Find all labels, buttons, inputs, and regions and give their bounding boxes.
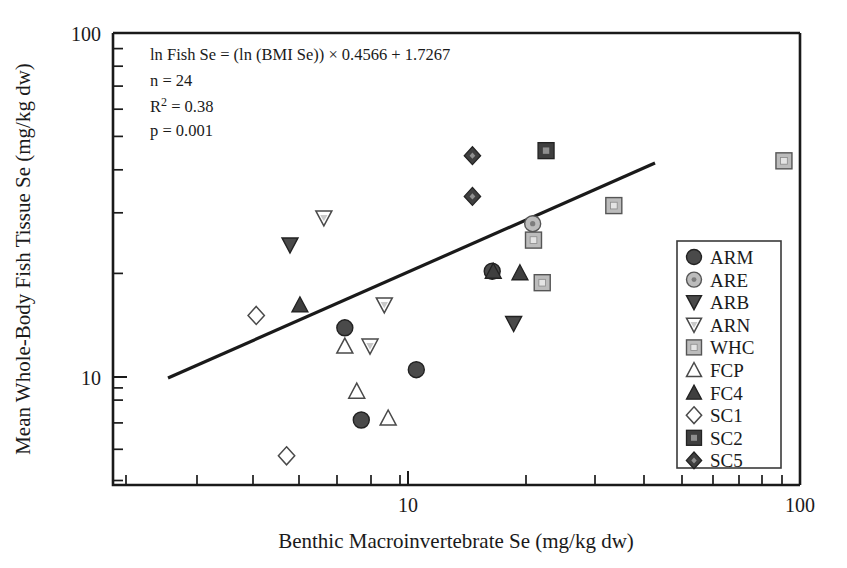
legend-label-sc2: SC2 xyxy=(710,428,743,449)
r-symbol: R xyxy=(150,97,161,116)
data-point-fc4 xyxy=(512,265,528,280)
scatter-plot: 100 10 10 100 Benthic Macroinvertebrate … xyxy=(0,0,847,568)
figure-container: 100 10 10 100 Benthic Macroinvertebrate … xyxy=(0,0,847,568)
y-axis-ticks xyxy=(113,33,127,481)
data-point-whc xyxy=(606,198,622,214)
data-point-fcp xyxy=(380,410,396,425)
regression-line xyxy=(168,163,655,378)
legend-label-arb: ARB xyxy=(710,292,749,313)
data-point-sc1 xyxy=(248,306,264,324)
data-point-sc1 xyxy=(278,447,294,465)
data-point-arm xyxy=(337,320,353,336)
data-point-sc5 xyxy=(464,147,480,165)
data-point-arn xyxy=(376,298,392,313)
legend-label-fcp: FCP xyxy=(710,360,744,381)
legend[interactable]: ARMAREARBARNWHCFCPFC4SC1SC2SC5 xyxy=(677,241,781,471)
legend-label-sc1: SC1 xyxy=(710,405,743,426)
x-axis-ticks xyxy=(126,471,800,485)
annotation-n: n = 24 xyxy=(150,71,192,90)
legend-marker-whc xyxy=(687,340,702,355)
y-tick-label-100: 100 xyxy=(71,23,101,45)
r-value: = 0.38 xyxy=(167,97,213,116)
data-point-sc5 xyxy=(464,187,480,205)
legend-label-whc: WHC xyxy=(710,337,754,358)
data-point-whc xyxy=(525,232,541,248)
data-point-sc2 xyxy=(538,143,554,159)
stats-annotation: ln Fish Se = (ln (BMI Se)) × 0.4566 + 1.… xyxy=(150,45,450,140)
data-point-arm xyxy=(353,412,369,428)
data-point-arn xyxy=(362,339,378,354)
annotation-r-squared: R2 = 0.38 xyxy=(150,95,213,116)
data-point-arn xyxy=(316,211,332,226)
x-tick-label-10: 10 xyxy=(398,494,418,516)
data-point-arb xyxy=(282,238,298,253)
y-axis-title: Mean Whole-Body Fish Tissue Se (mg/kg dw… xyxy=(11,63,35,455)
data-point-whc xyxy=(776,153,792,169)
x-axis-title: Benthic Macroinvertebrate Se (mg/kg dw) xyxy=(278,529,634,553)
data-point-arm xyxy=(408,362,424,378)
legend-label-arn: ARN xyxy=(710,315,750,336)
data-point-are xyxy=(525,216,541,232)
legend-marker-sc2 xyxy=(687,430,702,445)
data-point-fcp xyxy=(349,383,365,398)
data-point-fcp xyxy=(337,338,353,353)
legend-marker-arm xyxy=(687,250,702,265)
data-point-fc4 xyxy=(292,297,308,312)
legend-label-arm: ARM xyxy=(710,247,753,268)
annotation-p: p = 0.001 xyxy=(150,121,213,140)
legend-label-fc4: FC4 xyxy=(710,383,743,404)
data-point-arb xyxy=(506,317,522,332)
x-tick-label-100: 100 xyxy=(785,494,815,516)
legend-label-are: ARE xyxy=(710,270,748,291)
legend-label-sc5: SC5 xyxy=(710,450,743,471)
y-tick-label-10: 10 xyxy=(81,367,101,389)
legend-marker-are xyxy=(687,272,702,287)
data-point-whc xyxy=(534,275,550,291)
annotation-equation: ln Fish Se = (ln (BMI Se)) × 0.4566 + 1.… xyxy=(150,45,450,64)
